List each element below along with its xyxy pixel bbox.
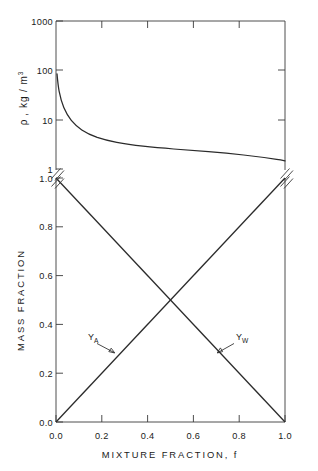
rho-comma: , <box>18 112 29 116</box>
lower-ytick-label-0.8: 0.8 <box>39 222 53 232</box>
lower-panel: 1.0 0.8 0.6 0.4 0.2 0.0 0.0 0.2 0.4 0.6 … <box>15 174 293 442</box>
xtick-label-0.2: 0.2 <box>95 431 109 441</box>
rho-symbol: ρ <box>18 119 29 126</box>
chart-canvas: 1000 100 10 1 ρ,kg / m3 <box>0 0 318 471</box>
lower-right-axis-break <box>281 177 294 189</box>
upper-panel-frame <box>56 21 285 170</box>
rho-exponent: 3 <box>17 71 24 76</box>
density-curve <box>57 74 285 161</box>
lower-y-ticks-left <box>56 178 63 422</box>
lower-yaxis-title-text: MASS FRACTION <box>15 249 26 351</box>
xtick-label-0.4: 0.4 <box>141 431 155 441</box>
lower-ytick-label-0.2: 0.2 <box>39 369 53 379</box>
xtick-label-0.0: 0.0 <box>49 431 63 441</box>
xtick-label-0.8: 0.8 <box>232 431 246 441</box>
ya-subscript: A <box>94 337 99 344</box>
xtick-label-0.6: 0.6 <box>187 431 201 441</box>
yw-subscript: W <box>242 337 249 344</box>
lower-ytick-label-1.0: 1.0 <box>39 174 53 184</box>
upper-ytick-label-1000: 1000 <box>31 17 53 27</box>
annotation-yw: YW <box>217 332 249 353</box>
upper-left-axis-break <box>52 169 65 181</box>
upper-yaxis-title: ρ,kg / m3 <box>17 71 29 126</box>
lower-ytick-label-0.0: 0.0 <box>39 418 53 428</box>
xtick-label-1.0: 1.0 <box>278 431 292 441</box>
lower-ytick-label-0.6: 0.6 <box>39 271 53 281</box>
upper-ytick-label-10: 10 <box>42 116 53 126</box>
lower-ytick-label-0.4: 0.4 <box>39 320 53 330</box>
upper-ytick-label-100: 100 <box>37 66 53 76</box>
svg-text:ρ,kg / m3: ρ,kg / m3 <box>17 71 29 126</box>
upper-y-ticks-right <box>278 70 285 120</box>
annotation-ya-text: YA <box>88 332 99 344</box>
upper-x-ticks-top <box>102 21 239 28</box>
upper-panel: 1000 100 10 1 ρ,kg / m3 <box>17 17 293 181</box>
figure-container: 1000 100 10 1 ρ,kg / m3 <box>0 0 318 471</box>
annotation-ya: YA <box>88 332 115 353</box>
lower-x-ticks-bottom <box>56 415 285 422</box>
upper-right-axis-break <box>281 169 294 181</box>
rho-units: kg / m <box>18 75 29 108</box>
lower-yaxis-title: MASS FRACTION <box>15 249 26 351</box>
xaxis-title: MIXTURE FRACTION, f <box>102 449 239 460</box>
annotation-yw-text: YW <box>236 332 249 344</box>
